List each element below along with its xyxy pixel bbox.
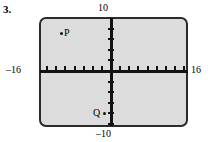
problem-number: 3. — [3, 3, 11, 15]
x-max-label: 16 — [191, 64, 201, 75]
x-tick — [74, 66, 76, 71]
y-min-label: –10 — [96, 128, 111, 139]
y-axis — [110, 18, 113, 126]
point-q-label: Q — [93, 108, 100, 118]
x-tick — [101, 66, 103, 71]
x-tick — [92, 66, 94, 71]
y-tick — [108, 38, 114, 40]
x-tick — [55, 66, 57, 71]
y-tick — [108, 59, 114, 61]
x-tick — [119, 66, 121, 71]
x-tick — [128, 66, 130, 71]
point-p-marker — [60, 32, 63, 35]
x-tick — [46, 66, 48, 71]
x-min-label: –16 — [6, 64, 21, 75]
y-tick — [108, 102, 114, 104]
y-tick — [108, 123, 114, 125]
x-tick — [83, 66, 85, 71]
x-tick — [156, 66, 158, 71]
y-tick — [108, 81, 114, 83]
x-tick — [147, 66, 149, 71]
y-tick — [108, 112, 114, 114]
point-q-marker — [103, 112, 106, 115]
y-tick — [108, 49, 114, 51]
x-tick — [183, 66, 185, 71]
y-tick — [108, 91, 114, 93]
x-tick — [137, 66, 139, 71]
point-p-label: P — [64, 28, 70, 38]
y-max-label: 10 — [98, 2, 108, 13]
graph-figure: 3. 10 –10 –16 16 P Q — [0, 0, 208, 142]
y-tick — [108, 28, 114, 30]
x-tick — [174, 66, 176, 71]
x-tick — [165, 66, 167, 71]
x-tick — [64, 66, 66, 71]
